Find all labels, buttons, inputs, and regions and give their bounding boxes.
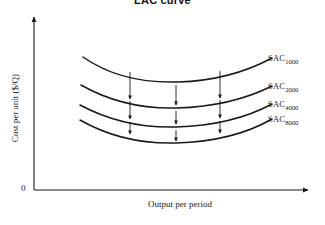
curve-label-subscript: 4000 bbox=[285, 104, 298, 111]
sac-curve-2000 bbox=[81, 85, 272, 108]
curve-label-text: SAC bbox=[268, 81, 285, 91]
curve-label-text: SAC bbox=[268, 114, 285, 124]
curve-label-subscript: 1000 bbox=[285, 58, 298, 65]
sac-curve-1000 bbox=[83, 57, 272, 82]
curve-label-sac-1000: SAC1000 bbox=[268, 53, 298, 65]
curve-label-text: SAC bbox=[268, 99, 285, 109]
curve-label-subscript: 2000 bbox=[285, 86, 298, 93]
y-axis-label: Cost per unit ($/Q) bbox=[10, 48, 20, 168]
origin-label: 0 bbox=[21, 183, 26, 193]
lac-curve-figure: LAC curve Cost per unit ($/Q) Output per… bbox=[0, 0, 325, 225]
plot-canvas bbox=[0, 0, 325, 225]
x-axis-label: Output per period bbox=[120, 199, 240, 209]
curve-label-subscript: 8000 bbox=[285, 119, 298, 126]
curve-label-sac-4000: SAC4000 bbox=[268, 99, 298, 111]
curve-label-sac-2000: SAC2000 bbox=[268, 81, 298, 93]
curve-label-text: SAC bbox=[268, 53, 285, 63]
curve-label-sac-8000: SAC8000 bbox=[268, 114, 298, 126]
